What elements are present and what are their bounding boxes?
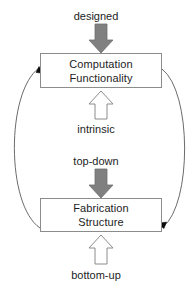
diagram-vector-layer [0,0,192,292]
edge-label-top-down: top-down [0,155,192,168]
designed-arrow [89,24,113,53]
diagram-canvas: Computation Functionality Fabrication St… [0,0,192,292]
intrinsic-arrow-shape [89,91,113,119]
designed-arrow-shape [89,24,113,53]
intrinsic-arrow [89,91,113,119]
node-computation-line-1: Computation [69,57,132,71]
node-fabrication-line-1: Fabrication [73,201,129,215]
node-fabrication-line-2: Structure [78,215,124,229]
left-curve-path [14,68,40,228]
top-down-arrow-shape [89,169,113,198]
right-curve-path [162,69,185,227]
edge-label-intrinsic: intrinsic [0,123,192,136]
node-computation-line-2: Functionality [69,71,132,85]
node-computation-functionality[interactable]: Computation Functionality [40,53,162,88]
edge-label-bottom-up: bottom-up [0,269,192,282]
bottom-up-arrow-shape [89,235,113,264]
top-down-arrow [89,169,113,198]
bottom-up-arrow [89,235,113,264]
edge-label-designed: designed [0,10,192,23]
node-fabrication-structure[interactable]: Fabrication Structure [40,198,162,232]
